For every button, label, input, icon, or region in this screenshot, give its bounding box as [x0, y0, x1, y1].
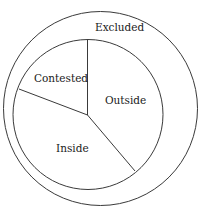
label-inside: Inside — [56, 142, 89, 154]
sector-diagram: Excluded Contested Outside Inside — [0, 0, 201, 212]
divider-lower-right — [88, 115, 136, 171]
divider-left — [19, 89, 88, 115]
label-outside: Outside — [105, 94, 146, 106]
label-contested: Contested — [34, 72, 88, 84]
label-excluded: Excluded — [95, 21, 145, 33]
